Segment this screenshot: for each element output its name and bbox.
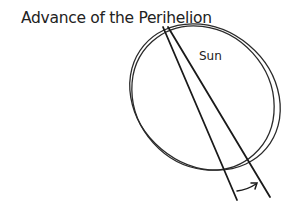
sun-label: Sun [199,49,222,63]
precession-arrow-icon [237,183,257,191]
perihelion-diagram [0,0,305,215]
orbit-ellipse-2 [102,0,303,199]
